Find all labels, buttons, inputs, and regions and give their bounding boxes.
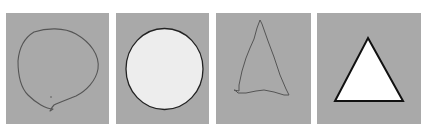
clean-circle-panel <box>116 13 209 124</box>
circle-icon <box>116 13 209 124</box>
hand-drawn-circle-icon <box>6 13 109 124</box>
sketch-circle-panel <box>6 13 109 124</box>
clean-triangle-panel <box>317 13 421 124</box>
triangle-icon <box>317 13 421 124</box>
hand-drawn-triangle-icon <box>216 13 311 124</box>
sketch-triangle-panel <box>216 13 311 124</box>
